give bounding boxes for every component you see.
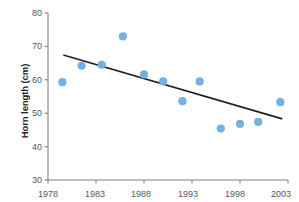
plot-area xyxy=(0,0,299,202)
chart-container: Horn length (cm) 80 70 60 50 40 30 1978 … xyxy=(0,0,299,202)
axis-ticks xyxy=(45,13,289,184)
data-points xyxy=(58,32,284,132)
axis-lines xyxy=(48,13,288,180)
trend-line xyxy=(63,55,282,119)
